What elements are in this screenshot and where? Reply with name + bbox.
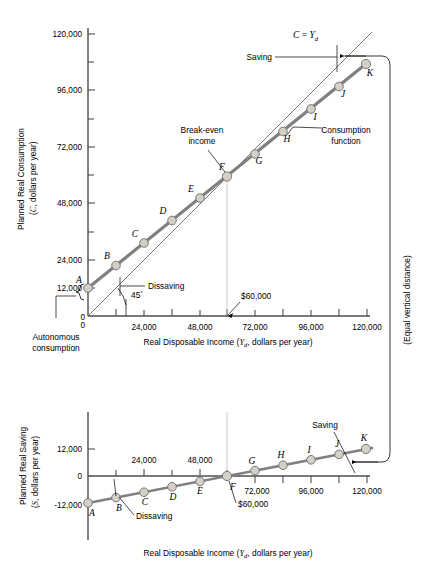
lower-ytick-0: 0 <box>77 472 82 481</box>
lower-ytick-neg12000: -12,000 <box>54 501 82 510</box>
upper-ytick-72000: 72,000 <box>57 143 82 152</box>
upper-ytick-96000: 96,000 <box>57 86 82 95</box>
lower-point-G <box>251 466 260 475</box>
upper-label-H: H <box>283 134 292 144</box>
economics-figure: 120,000 96,000 72,000 48,000 24,000 12,0… <box>0 0 436 572</box>
upper-sixty-thousand-leader <box>228 302 240 315</box>
c-equals-yd-label: C = Yd <box>293 30 319 42</box>
lower-x-title-post: , dollars per year) <box>247 548 312 558</box>
angle-arc <box>118 288 126 305</box>
upper-point-E <box>196 194 205 203</box>
lower-sixty-thousand-label: $60,000 <box>238 499 269 509</box>
consumption-function-label-line2: function <box>331 136 361 146</box>
upper-y-ticks <box>88 34 95 288</box>
upper-x-ticks <box>116 309 367 316</box>
upper-origin-zero: 0 <box>80 313 85 322</box>
lower-y-title-rest: , dollars per year) <box>30 436 40 501</box>
lower-label-B: B <box>116 503 122 513</box>
break-even-label-line2: income <box>189 136 216 146</box>
forty-five-degree-label: 45° <box>131 290 143 300</box>
upper-ytick-48000: 48,000 <box>57 199 82 208</box>
lower-label-K: K <box>360 433 368 443</box>
upper-point-B <box>112 261 121 270</box>
upper-label-E: E <box>187 184 194 194</box>
lower-x-axis-title: Real Disposable Income (Yd, dollars per … <box>144 548 313 559</box>
degree-symbol: ° <box>140 290 143 296</box>
upper-xtick-24000: 24,000 <box>131 323 156 332</box>
consumption-function-leader <box>293 127 322 128</box>
lower-xtick-24000: 24,000 <box>131 456 156 465</box>
break-even-label-line1: Break-even <box>181 125 224 135</box>
lower-point-I <box>307 456 316 465</box>
upper-label-A: A <box>75 275 82 285</box>
upper-label-I: I <box>312 112 317 122</box>
lower-label-C: C <box>142 497 149 507</box>
lower-xtick-96000: 96,000 <box>298 487 323 496</box>
lower-point-A <box>84 499 93 508</box>
break-even-leader <box>208 150 225 172</box>
upper-xtick-72000: 72,000 <box>242 323 267 332</box>
upper-label-D: D <box>159 206 167 216</box>
lower-point-F <box>222 471 231 480</box>
upper-ytick-24000: 24,000 <box>57 256 82 265</box>
lower-saving-label: Saving <box>312 420 338 430</box>
lower-xtick-48000: 48,000 <box>187 456 212 465</box>
lower-y-axis-title-line1: Planned Real Saving <box>18 426 28 505</box>
upper-xtick-0: 0 <box>80 321 85 330</box>
equal-vertical-distance-bracket: (Equal vertical distance) <box>340 56 412 462</box>
consumption-function-label-line1: Consumption <box>321 125 371 135</box>
upper-xtick-48000: 48,000 <box>187 323 212 332</box>
equal-vertical-distance-label: (Equal vertical distance) <box>402 255 412 345</box>
upper-y-title-rest: , dollars per year) <box>28 141 38 206</box>
upper-label-B: B <box>104 251 110 261</box>
upper-xtick-120000: 120,000 <box>352 323 382 332</box>
lower-ytick-12000: 12,000 <box>57 445 82 454</box>
upper-x-axis-title: Real Disposable Income (Yd, dollars per … <box>144 337 313 348</box>
upper-saving-label: Saving <box>246 52 272 62</box>
upper-x-title-pre: Real Disposable Income ( <box>144 337 240 347</box>
upper-label-J: J <box>341 89 346 99</box>
upper-dissaving-label: Dissaving <box>148 281 185 291</box>
lower-xtick-120000: 120,000 <box>352 487 382 496</box>
lower-label-D: D <box>169 492 177 502</box>
forty-five-value: 45 <box>131 290 141 300</box>
lower-y-axis-title-line2: (S, dollars per year) <box>30 436 40 508</box>
autonomous-label-line1: Autonomous <box>32 332 79 342</box>
lower-label-E: E <box>196 486 203 496</box>
upper-label-C: C <box>132 229 139 239</box>
upper-label-G: G <box>256 156 263 166</box>
upper-point-D <box>168 216 177 225</box>
lower-xtick-72000: 72,000 <box>244 487 269 496</box>
lower-point-H <box>279 461 288 470</box>
lower-point-K <box>361 444 370 453</box>
figure-canvas: 120,000 96,000 72,000 48,000 24,000 12,0… <box>0 0 436 572</box>
lower-chart: 12,000 0 -12,000 24,000 48,000 72,000 96… <box>18 412 382 559</box>
lower-label-J: J <box>335 439 340 449</box>
upper-ytick-120000: 120,000 <box>52 30 82 39</box>
yd-subscript: d <box>315 35 319 42</box>
upper-x-title-post: , dollars per year) <box>247 337 312 347</box>
upper-y-axis-title-line1: Planned Real Consumption <box>16 128 26 230</box>
lower-point-J <box>335 450 344 459</box>
upper-sixty-thousand-label: $60,000 <box>241 291 272 301</box>
upper-chart: 120,000 96,000 72,000 48,000 24,000 12,0… <box>16 28 382 353</box>
upper-y-axis-title-line2: (C, dollars per year) <box>28 141 38 215</box>
upper-point-A <box>84 284 93 293</box>
autonomous-label-line2: consumption <box>32 343 80 353</box>
upper-point-C <box>140 239 149 248</box>
equals-symbol: = <box>299 30 309 40</box>
upper-xtick-96000: 96,000 <box>298 323 323 332</box>
upper-label-K: K <box>366 68 374 78</box>
lower-point-C <box>140 488 149 497</box>
lower-point-E <box>196 477 205 486</box>
upper-point-F <box>222 172 231 181</box>
lower-x-title-pre: Real Disposable Income ( <box>144 548 240 558</box>
lower-label-I: I <box>306 445 311 455</box>
lower-dissaving-label: Dissaving <box>136 511 173 521</box>
lower-label-A: A <box>88 508 95 518</box>
lower-point-D <box>168 483 177 492</box>
lower-label-H: H <box>277 450 286 460</box>
bracket-path <box>345 56 390 462</box>
lower-label-G: G <box>249 456 256 466</box>
